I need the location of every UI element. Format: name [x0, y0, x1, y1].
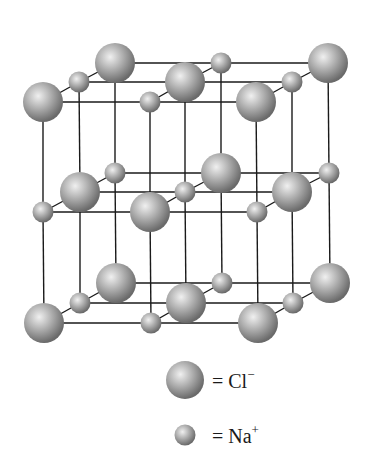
chloride-ion [23, 82, 63, 122]
chloride-ion [272, 172, 312, 212]
legend-item-sodium: = Na+ [175, 422, 259, 447]
chloride-ion [308, 43, 348, 83]
sodium-ion [141, 313, 162, 334]
chloride-ion [310, 263, 350, 303]
legend: = Cl− = Na+ [166, 361, 259, 447]
chloride-ion [238, 303, 278, 343]
sodium-ion [105, 163, 126, 184]
chloride-ion [96, 263, 136, 303]
sodium-ion [69, 72, 90, 93]
legend-label-chloride: = Cl− [212, 367, 255, 392]
sodium-ion [319, 163, 340, 184]
nacl-lattice-diagram: = Cl− = Na+ [0, 0, 372, 454]
chloride-ion [165, 62, 205, 102]
chloride-ion [130, 192, 170, 232]
sodium-ion [33, 202, 54, 223]
chloride-ion [166, 283, 206, 323]
sodium-ion [282, 72, 303, 93]
lattice-atoms [23, 43, 350, 343]
sodium-ion [70, 293, 91, 314]
chloride-ion [201, 153, 241, 193]
chloride-ion [95, 43, 135, 83]
sodium-ion [212, 273, 233, 294]
legend-label-sodium: = Na+ [212, 422, 259, 447]
sodium-sphere-icon [175, 425, 196, 446]
sodium-ion [247, 202, 268, 223]
sodium-ion [211, 53, 232, 74]
sodium-ion [140, 92, 161, 113]
sodium-ion [175, 182, 196, 203]
sodium-ion [283, 293, 304, 314]
chloride-sphere-icon [166, 361, 204, 399]
chloride-ion [236, 82, 276, 122]
chloride-ion [24, 303, 64, 343]
chloride-ion [60, 172, 100, 212]
legend-item-chloride: = Cl− [166, 361, 255, 399]
